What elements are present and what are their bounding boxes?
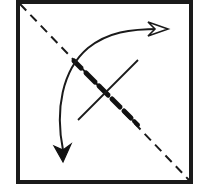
origami-diagram [0,0,197,186]
